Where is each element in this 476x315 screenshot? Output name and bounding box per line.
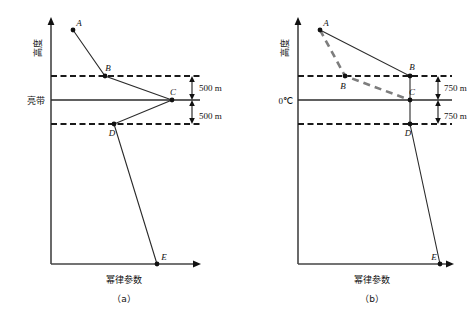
panel-a-thickness-above-label: 500 m: [199, 83, 222, 93]
panel-a-label-A: A: [75, 18, 82, 28]
panel-a-x-axis-label: 幂律参数: [106, 274, 142, 285]
panel-a-y-axis-label: 高度: [32, 39, 43, 57]
panel-a-label-C: C: [170, 87, 177, 97]
panel-b-point-A: [318, 28, 323, 33]
panel-b-point-E: [438, 262, 443, 267]
panel-b-point-B-solid: [408, 74, 413, 79]
panel-b-label-E: E: [430, 252, 437, 262]
panel-b-point-C: [408, 98, 413, 103]
panel-b-label-B-solid: B: [409, 62, 415, 72]
panel-b-axes: [295, 17, 454, 267]
panel-a-point-D: [112, 122, 117, 127]
panel-b-label-D: D: [404, 128, 412, 138]
panel-a-caption: （a）: [112, 294, 136, 304]
panel-a: A B C D E 500 m 500 m 亮带 高度 幂律参数 （a）: [27, 17, 222, 304]
panel-b-point-B-gray: [343, 74, 348, 79]
panel-b-caption: （b）: [360, 294, 384, 304]
panel-a-label-E: E: [160, 252, 167, 262]
panel-b-x-axis-label: 幂律参数: [354, 274, 390, 285]
panel-b-label-B-gray: B: [340, 81, 346, 91]
panel-a-thickness-below-label: 500 m: [199, 111, 222, 121]
panel-a-bright-band-label: 亮带: [27, 95, 45, 106]
panel-b-zero-degree-label: 0℃: [279, 96, 294, 106]
panel-b-point-D: [408, 122, 413, 127]
panel-b-thickness-below-label: 750 m: [444, 111, 467, 121]
panel-a-profile-line: [73, 30, 172, 264]
panel-b-thickness-above-label: 750 m: [444, 83, 467, 93]
panel-a-label-B: B: [105, 63, 111, 73]
panel-a-axes: [48, 17, 201, 267]
panel-b: A B B C D E 750 m 750 m 0℃ 高度 幂律参数 （b）: [279, 17, 467, 304]
figure-container: A B C D E 500 m 500 m 亮带 高度 幂律参数 （a）: [0, 0, 476, 315]
panel-b-gray-profile-line: [320, 30, 410, 100]
panel-a-label-D: D: [108, 128, 116, 138]
panel-a-point-E: [155, 262, 160, 267]
panel-b-label-A: A: [322, 18, 329, 28]
panel-b-label-C: C: [409, 87, 416, 97]
panel-a-point-A: [71, 28, 76, 33]
panel-a-point-B: [103, 74, 108, 79]
panel-a-point-C: [170, 98, 175, 103]
panel-b-y-axis-label: 高度: [279, 39, 290, 57]
